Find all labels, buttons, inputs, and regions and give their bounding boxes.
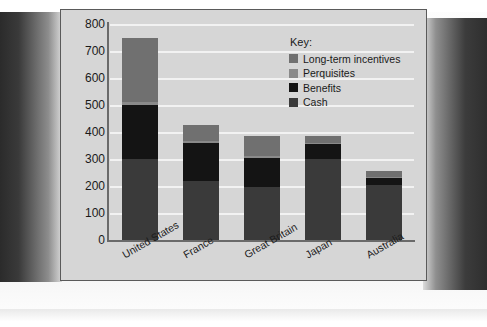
legend-item: Long-term incentives [289,52,421,65]
bar-great-britain [244,136,280,240]
bar-segment-benefits [305,144,341,159]
y-axis-line [107,22,109,242]
bar-segment-benefits [244,158,280,188]
bar-australia [366,171,402,240]
legend-swatch-icon [289,83,298,92]
y-axis-tick-label: 100 [65,208,105,218]
y-axis-tick-labels: 8007006005004003002001000 [61,10,105,242]
legend-item-label: Cash [303,96,328,108]
legend-item-label: Long-term incentives [303,53,400,65]
bar-segment-benefits [122,105,158,159]
y-axis-tick-label: 800 [65,19,105,29]
legend-swatch-icon [289,54,298,63]
legend-title: Key: [289,36,421,48]
y-axis-tick-label: 500 [65,100,105,110]
page-shadow-left [0,10,62,282]
legend-item: Cash [289,96,421,109]
bar-segment-long-term-incentives [305,136,341,143]
bar-segment-benefits [183,143,219,181]
bar-japan [305,136,341,240]
legend-item: Perquisites [289,67,421,80]
page-margin-bottom [0,309,487,327]
bar-segment-cash [183,181,219,240]
legend-item: Benefits [289,81,421,94]
y-axis-tick-label: 400 [65,127,105,137]
bar-segment-cash [305,159,341,240]
bar-united-states [122,38,158,240]
y-axis-tick-label: 300 [65,154,105,164]
bar-segment-long-term-incentives [244,136,280,156]
chart-screenshot: 8007006005004003002001000 Key: Long-term… [0,0,487,327]
legend-swatch-icon [289,69,298,78]
legend-item-label: Perquisites [303,67,355,79]
y-axis-tick-label: 700 [65,46,105,56]
y-axis-tick-label: 0 [65,235,105,245]
chart-legend: Key: Long-term incentivesPerquisitesBene… [289,36,421,110]
legend-item-label: Benefits [303,82,341,94]
bar-segment-long-term-incentives [183,125,219,141]
bar-segment-long-term-incentives [122,38,158,103]
legend-swatch-icon [289,98,298,107]
bar-segment-benefits [366,178,402,185]
chart-panel: 8007006005004003002001000 Key: Long-term… [60,9,427,281]
y-axis-tick-label: 600 [65,73,105,83]
legend-item-list: Long-term incentivesPerquisitesBenefitsC… [289,52,421,109]
y-axis-tick-label: 200 [65,181,105,191]
bar-france [183,125,219,240]
gridline [110,24,414,26]
page-shadow-right [423,18,487,290]
bar-segment-cash [122,159,158,240]
